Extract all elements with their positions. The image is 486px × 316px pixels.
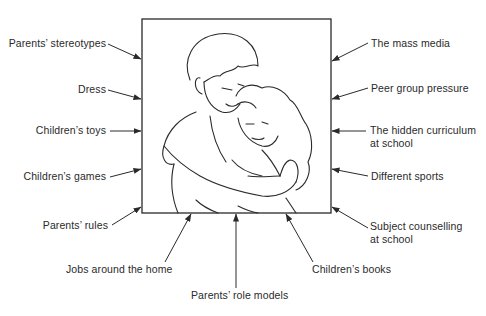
label-hidden-curriculum-line1: The hidden curriculum: [370, 124, 480, 137]
label-subject-counselling-line2: at school: [370, 233, 480, 246]
label-subject-counselling: Subject counselling at school: [370, 220, 480, 246]
label-childrens-games: Children’s games: [23, 170, 106, 183]
arrow-parents-stereotypes: [108, 44, 141, 59]
label-childrens-books: Children’s books: [312, 263, 391, 276]
label-parents-role-models: Parents’ role models: [191, 289, 288, 302]
label-childrens-toys: Children’s toys: [36, 124, 106, 137]
arrow-different-sports: [332, 169, 368, 176]
arrow-jobs-around-home: [165, 214, 191, 262]
arrow-mass-media: [332, 43, 368, 61]
label-subject-counselling-line1: Subject counselling: [370, 220, 480, 233]
arrow-subject-counselling: [332, 207, 368, 228]
label-peer-group-pressure: Peer group pressure: [371, 82, 469, 95]
arrow-dress: [108, 90, 141, 99]
label-dress: Dress: [78, 83, 106, 96]
label-hidden-curriculum: The hidden curriculum at school: [370, 124, 480, 150]
label-different-sports: Different sports: [371, 170, 444, 183]
picture-frame: [142, 19, 331, 213]
label-parents-rules: Parents’ rules: [43, 219, 108, 232]
arrow-parents-rules: [112, 207, 141, 225]
arrow-childrens-games: [110, 169, 141, 177]
hug-illustration: [163, 34, 312, 213]
label-jobs-around-home: Jobs around the home: [66, 263, 173, 276]
arrow-peer-group: [332, 88, 368, 99]
label-mass-media: The mass media: [371, 37, 450, 50]
label-hidden-curriculum-line2: at school: [370, 137, 480, 150]
diagram-canvas: Parents’ stereotypes Dress Children’s to…: [0, 0, 486, 316]
arrow-childrens-books: [286, 214, 313, 262]
label-parents-stereotypes: Parents’ stereotypes: [9, 37, 106, 50]
